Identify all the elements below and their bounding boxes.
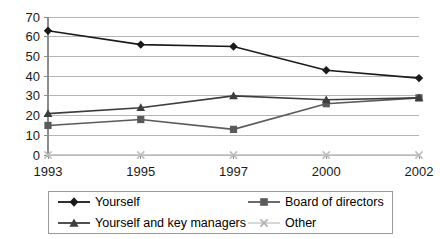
- legend-entry-yourself[interactable]: Yourself: [57, 196, 247, 209]
- data-point-square: [44, 122, 51, 129]
- legend-label-yourself: Yourself: [95, 196, 140, 209]
- legend-entry-board-of-directors[interactable]: Board of directors: [247, 196, 392, 209]
- x-axis-tick-label: 2000: [312, 164, 341, 179]
- data-series: [44, 27, 423, 83]
- data-point-diamond: [44, 27, 52, 35]
- legend-label-board-of-directors: Board of directors: [285, 196, 384, 209]
- y-axis-tick-label: 20: [26, 108, 40, 123]
- data-series-group: [44, 27, 424, 159]
- chart-legend: Yourself Board of directors Yourself and…: [48, 191, 393, 234]
- series-line: [48, 31, 419, 78]
- data-series: [44, 91, 424, 117]
- data-point-square: [137, 116, 144, 123]
- legend-label-other: Other: [285, 217, 316, 230]
- data-point-diamond: [229, 42, 237, 50]
- y-axis-tick-labels: 010203040506070: [26, 10, 40, 163]
- line-chart: 010203040506070 19931995199720002002 You…: [0, 0, 440, 239]
- data-point-diamond: [415, 74, 423, 82]
- y-axis-tick-label: 10: [26, 128, 40, 143]
- y-axis-tick-label: 70: [26, 10, 40, 25]
- y-axis-tick-label: 60: [26, 29, 40, 44]
- legend-entry-other[interactable]: Other: [247, 217, 392, 230]
- data-point-square: [230, 126, 237, 133]
- x-axis-tick-label: 1993: [34, 164, 63, 179]
- x-axis-tick-label: 2002: [405, 164, 434, 179]
- y-axis-tick-label: 50: [26, 49, 40, 64]
- triangle-marker-icon: [57, 217, 91, 229]
- cross-x-marker-icon: [247, 217, 281, 229]
- diamond-marker-icon: [57, 196, 91, 208]
- series-line: [48, 98, 419, 130]
- legend-entry-yourself-and-key-managers[interactable]: Yourself and key managers: [57, 217, 247, 230]
- data-point-diamond: [322, 66, 330, 74]
- x-axis-tick-label: 1995: [126, 164, 155, 179]
- data-series: [44, 94, 422, 133]
- x-axis-tick-label: 1997: [219, 164, 248, 179]
- data-point-diamond: [137, 40, 145, 48]
- y-axis-tick-label: 30: [26, 88, 40, 103]
- x-axis-tick-labels: 19931995199720002002: [34, 164, 434, 179]
- legend-label-yourself-and-key-managers: Yourself and key managers: [95, 217, 246, 230]
- y-axis-tick-label: 0: [33, 148, 40, 163]
- y-axis-tick-label: 40: [26, 69, 40, 84]
- square-marker-icon: [247, 196, 281, 208]
- gridlines: [48, 17, 419, 155]
